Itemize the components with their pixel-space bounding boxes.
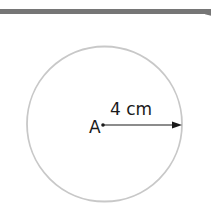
arrowhead-icon: [172, 122, 182, 129]
circle-diagram: [0, 0, 211, 208]
radius-label: 4 cm: [110, 101, 152, 118]
center-label: A: [89, 119, 101, 136]
circle-outline: [27, 47, 182, 202]
